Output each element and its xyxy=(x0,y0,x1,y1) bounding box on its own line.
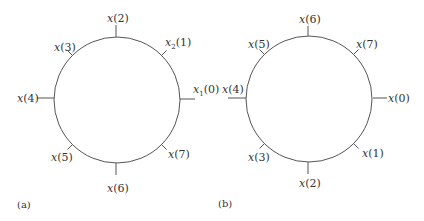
node-label-a-x-5: x(5) xyxy=(51,151,73,164)
node-label-b-x-6: x(6) xyxy=(299,13,321,26)
node-label-a-x-2: x(2) xyxy=(107,12,129,25)
node-label-b-x-0: x(0) xyxy=(388,92,410,105)
node-label-a-x-7: x(7) xyxy=(168,148,190,161)
circular-node-diagram: x1(0) x2(1) x(2) x(3) x(4) x(5) x(6) x(7… xyxy=(0,0,424,221)
labels-b: x(0) x(1) x(2) x(3) x(4) x(5) x(6) x(7) xyxy=(222,13,410,190)
node-label-a-x-4: x(4) xyxy=(17,92,39,105)
node-label-a-x1-0: x1(0) xyxy=(193,83,219,98)
node-label-a-x-3: x(3) xyxy=(54,41,76,54)
node-label-b-x-3: x(3) xyxy=(248,151,270,164)
panel-label-a: (a) xyxy=(17,199,31,210)
panel-a: x1(0) x2(1) x(2) x(3) x(4) x(5) x(6) x(7… xyxy=(17,12,219,210)
node-label-a-x2-1: x2(1) xyxy=(165,36,191,51)
tick-a-x-7 xyxy=(162,145,167,150)
node-label-a-x-6: x(6) xyxy=(107,182,129,195)
tick-a-x2-1 xyxy=(162,51,167,56)
panel-label-b: (b) xyxy=(218,198,232,209)
ring-b xyxy=(246,36,372,162)
node-label-b-x-7: x(7) xyxy=(356,38,378,51)
node-label-b-x-5: x(5) xyxy=(248,38,270,51)
tick-b-x-3 xyxy=(260,144,265,149)
node-label-b-x-2: x(2) xyxy=(299,177,321,190)
labels-a: x1(0) x2(1) x(2) x(3) x(4) x(5) x(6) x(7… xyxy=(17,12,219,195)
ring-a xyxy=(54,37,180,163)
node-label-b-x-1: x(1) xyxy=(362,147,384,160)
node-label-b-x-4: x(4) xyxy=(222,83,244,96)
tick-a-x-5 xyxy=(68,145,73,150)
panel-b: x(0) x(1) x(2) x(3) x(4) x(5) x(6) x(7) … xyxy=(218,13,410,209)
tick-b-x-1 xyxy=(354,144,359,149)
